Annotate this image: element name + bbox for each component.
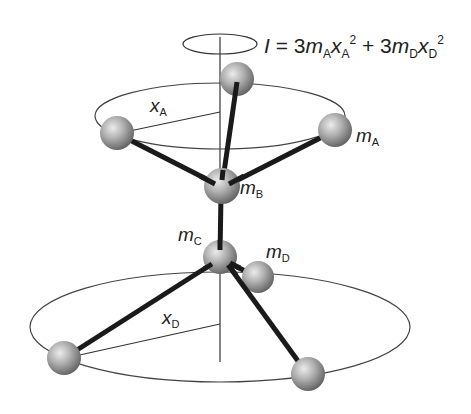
eq-m: m [305, 34, 323, 57]
radius-xA-line [120, 112, 220, 133]
eq-m: m [392, 34, 410, 57]
label-base: m [178, 224, 194, 245]
label-base: m [356, 125, 372, 146]
label-sub: C [194, 235, 202, 247]
inertia-equation: I = 3mAxA2 + 3mDxD2 [264, 34, 444, 60]
label-base: m [240, 177, 256, 198]
label-base: x [150, 95, 160, 116]
molecule-diagram [0, 0, 471, 414]
label-sub: B [256, 188, 263, 200]
label-mB: mB [240, 178, 263, 200]
eq-sub: D [409, 47, 418, 61]
label-sub: D [172, 318, 180, 330]
label-base: x [162, 307, 172, 328]
label-mA: mA [356, 126, 379, 148]
eq-sup: 2 [437, 33, 444, 47]
eq-equals: = 3 [270, 34, 306, 57]
label-sub: D [282, 252, 290, 264]
eq-plus: + 3 [356, 34, 392, 57]
label-xA: xA [150, 96, 167, 118]
label-sub: A [372, 136, 379, 148]
bond-C-D-left [66, 260, 218, 357]
label-xD: xD [162, 308, 179, 330]
atom-D-left [47, 341, 81, 375]
atom-D-right [291, 357, 325, 391]
eq-sub: A [341, 47, 349, 61]
label-mD: mD [266, 242, 290, 264]
atom-A-left [100, 116, 134, 150]
eq-sub: A [323, 47, 331, 61]
atom-A-right [318, 113, 352, 147]
eq-x: x [418, 34, 429, 57]
label-mC: mC [178, 225, 202, 247]
label-base: m [266, 241, 282, 262]
label-sub: A [160, 106, 167, 118]
bond-stub-B-top [222, 170, 223, 180]
eq-sub: D [428, 47, 437, 61]
eq-x: x [331, 34, 342, 57]
